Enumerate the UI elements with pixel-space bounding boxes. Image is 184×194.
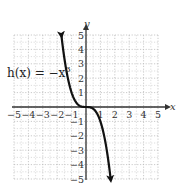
x-tick-label: 3 [126,109,132,120]
y-axis-label: y [83,18,90,29]
x-tick-label: 2 [112,109,118,120]
y-tick-label: −4 [70,159,84,170]
y-tick-label: −1 [70,116,84,127]
x-tick-label: 4 [141,109,147,120]
y-tick-label: −5 [70,174,84,185]
function-label-exponent: 3 [65,65,70,74]
y-tick-label: 2 [78,73,84,84]
y-tick-label: −3 [70,145,84,156]
y-tick-label: 4 [78,44,84,55]
x-axis-label: x [170,101,176,112]
y-tick-label: 1 [78,87,84,98]
x-tick-label: −3 [36,109,50,120]
function-graph: −5−4−3−2−11234554321−1−2−3−4−5 x y h(x) … [0,0,184,194]
x-tick-label: −2 [50,109,64,120]
y-tick-label: 5 [78,30,84,41]
function-label: h(x) = −x3 [7,65,70,80]
function-label-text: h(x) = −x [7,66,66,80]
x-tick-label: 5 [155,109,161,120]
y-tick-label: −2 [70,130,84,141]
x-tick-label: −4 [21,109,35,120]
y-tick-label: 3 [78,58,84,69]
x-tick-label: −5 [7,109,21,120]
